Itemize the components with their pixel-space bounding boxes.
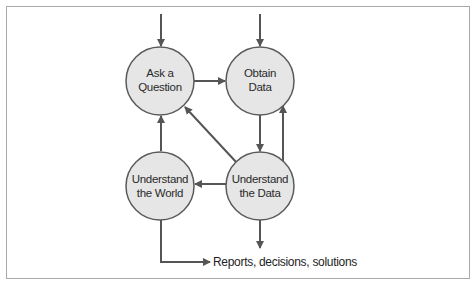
node-label-line2: the World [137, 187, 183, 199]
output-label: Reports, decisions, solutions [213, 255, 357, 269]
node-label-line2: Question [138, 81, 182, 93]
node-label-line2: the Data [239, 187, 281, 199]
edge-data-ask [185, 107, 237, 163]
node-label-line1: Obtain [244, 67, 276, 79]
node-label-line2: Data [248, 81, 272, 93]
node-ask-a-question: Ask a Question [126, 47, 194, 115]
node-label-line1: Ask a [146, 67, 174, 79]
node-label-line1: Understand [232, 173, 288, 185]
node-understand-the-data: Understand the Data [226, 152, 294, 220]
edge-world-output [161, 220, 210, 262]
node-obtain-data: Obtain Data [226, 47, 294, 115]
workflow-diagram: Ask a Question Obtain Data Understand th… [0, 0, 476, 284]
node-label-line1: Understand [132, 173, 188, 185]
node-understand-the-world: Understand the World [126, 152, 194, 220]
